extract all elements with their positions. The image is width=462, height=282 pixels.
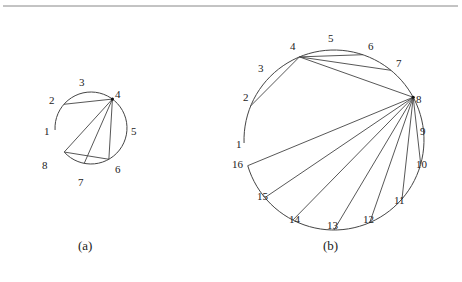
vertex-label: 3 xyxy=(258,62,264,74)
vertex-label: 1 xyxy=(236,138,242,150)
hub-vertex-dot xyxy=(412,96,415,99)
vertex-label: 13 xyxy=(327,219,339,231)
vertex-label: 7 xyxy=(78,176,84,188)
panel-a-caption: (a) xyxy=(78,238,92,253)
vertex-label: 5 xyxy=(328,32,334,44)
vertex-label: 4 xyxy=(115,88,121,100)
panel-b-caption: (b) xyxy=(323,238,338,253)
chord-4-6 xyxy=(109,99,113,159)
vertex-label: 8 xyxy=(42,159,48,171)
vertex-label: 7 xyxy=(396,57,402,69)
vertex-label: 11 xyxy=(394,194,405,206)
vertex-label: 8 xyxy=(416,93,422,105)
vertex-label: 3 xyxy=(79,76,85,88)
polygon-arc xyxy=(55,92,127,164)
vertex-label: 5 xyxy=(131,125,137,137)
vertex-label: 14 xyxy=(289,213,301,225)
vertex-label: 15 xyxy=(257,190,269,202)
chord-4-6 xyxy=(299,55,362,57)
chord-4-7 xyxy=(299,57,390,70)
chord-4-7 xyxy=(84,99,112,163)
vertex-label: 6 xyxy=(115,163,121,175)
vertex-label: 2 xyxy=(243,91,249,103)
panel-a-diagram: 12345678 xyxy=(42,76,137,188)
chord-8-15 xyxy=(265,97,413,197)
vertex-label: 12 xyxy=(363,213,374,225)
vertex-label: 16 xyxy=(232,158,244,170)
hub-vertex-dot xyxy=(111,97,114,100)
chord-4-8 xyxy=(64,99,112,152)
vertex-label: 2 xyxy=(49,94,55,106)
chord-2-4 xyxy=(64,99,113,104)
vertex-label: 4 xyxy=(290,40,296,52)
figure-canvas: 12345678 12345678910111213141516 (a) (b) xyxy=(0,0,462,282)
vertex-label: 9 xyxy=(420,125,426,137)
vertex-label: 1 xyxy=(44,125,50,137)
panel-b-diagram: 12345678910111213141516 xyxy=(232,32,428,231)
vertex-label: 10 xyxy=(416,158,428,170)
vertex-label: 6 xyxy=(368,40,374,52)
chord-8-16 xyxy=(248,97,413,165)
